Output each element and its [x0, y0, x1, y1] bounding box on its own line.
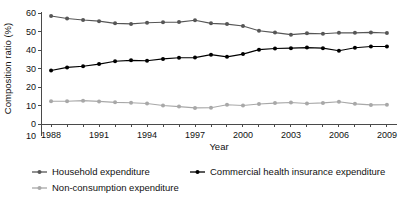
- y-tick-label-50: 50: [26, 27, 36, 37]
- data-point: [161, 57, 165, 61]
- data-point: [193, 18, 197, 22]
- data-point: [353, 31, 357, 35]
- data-point: [337, 49, 341, 53]
- data-point: [65, 65, 69, 69]
- data-point: [273, 31, 277, 35]
- legend-label: Commercial health insurance expenditure: [210, 166, 385, 177]
- data-point: [81, 99, 85, 103]
- legend-marker-dot: [196, 170, 200, 174]
- y-tick-label-60: 60: [26, 8, 36, 18]
- y-tick-label-40: 40: [26, 45, 36, 55]
- data-point: [129, 101, 133, 105]
- data-point: [305, 31, 309, 35]
- data-point: [97, 19, 101, 23]
- data-point: [49, 69, 53, 73]
- data-point: [369, 103, 373, 107]
- series-line-2: [51, 101, 387, 108]
- data-point: [129, 22, 133, 26]
- legend-label: Household expenditure: [52, 166, 150, 177]
- data-point: [273, 47, 277, 51]
- data-point: [113, 59, 117, 63]
- data-point: [225, 103, 229, 107]
- data-point: [369, 30, 373, 34]
- data-point: [49, 99, 53, 103]
- line-chart: 0102030405060101988199119941997200020032…: [0, 0, 403, 205]
- x-tick-label-2009: 2009: [377, 130, 397, 140]
- data-point: [65, 17, 69, 21]
- data-point: [81, 18, 85, 22]
- legend-label: Non-consumption expenditure: [52, 182, 179, 193]
- y-tick-label-0: 0: [31, 119, 36, 129]
- data-point: [337, 31, 341, 35]
- y-tick-label-20: 20: [26, 82, 36, 92]
- data-point: [337, 100, 341, 104]
- data-point: [321, 101, 325, 105]
- x-axis-title: Year: [209, 141, 228, 152]
- y-tick-label-10: 10: [26, 101, 36, 111]
- y-tick-label-extra: 10: [26, 131, 36, 141]
- series-line-0: [51, 16, 387, 35]
- legend-item-2[interactable]: Non-consumption expenditure: [32, 182, 179, 193]
- data-point: [193, 56, 197, 60]
- data-point: [289, 46, 293, 50]
- legend-marker-dot: [38, 186, 42, 190]
- x-tick-label-1997: 1997: [185, 130, 205, 140]
- data-point: [257, 29, 261, 33]
- data-point: [209, 106, 213, 110]
- data-point: [145, 59, 149, 63]
- y-tick-label-30: 30: [26, 64, 36, 74]
- data-point: [321, 46, 325, 50]
- data-point: [353, 102, 357, 106]
- x-tick-label-1991: 1991: [89, 130, 109, 140]
- data-point: [321, 32, 325, 36]
- legend-item-0[interactable]: Household expenditure: [32, 166, 150, 177]
- y-axis-title: Composition ratio (%): [2, 23, 13, 114]
- data-point: [273, 101, 277, 105]
- data-point: [97, 62, 101, 66]
- data-point: [289, 101, 293, 105]
- series-line-1: [51, 46, 387, 70]
- data-point: [113, 21, 117, 25]
- data-point: [353, 46, 357, 50]
- chart-figure: 0102030405060101988199119941997200020032…: [0, 0, 403, 205]
- data-point: [209, 53, 213, 57]
- x-tick-label-2006: 2006: [329, 130, 349, 140]
- x-tick-label-1988: 1988: [41, 130, 61, 140]
- data-point: [385, 44, 389, 48]
- legend-marker-dot: [38, 170, 42, 174]
- data-point: [65, 99, 69, 103]
- x-tick-label-2003: 2003: [281, 130, 301, 140]
- data-point: [97, 99, 101, 103]
- data-point: [177, 105, 181, 109]
- data-point: [257, 102, 261, 106]
- data-point: [289, 33, 293, 37]
- data-point: [385, 103, 389, 107]
- data-point: [305, 101, 309, 105]
- data-point: [305, 46, 309, 50]
- data-point: [161, 20, 165, 24]
- data-point: [129, 58, 133, 62]
- data-point: [193, 106, 197, 110]
- data-point: [161, 104, 165, 108]
- x-tick-label-1994: 1994: [137, 130, 157, 140]
- data-point: [113, 100, 117, 104]
- data-point: [81, 64, 85, 68]
- data-point: [385, 31, 389, 35]
- data-point: [145, 21, 149, 25]
- data-point: [225, 22, 229, 26]
- data-point: [241, 24, 245, 28]
- data-point: [177, 20, 181, 24]
- x-tick-label-2000: 2000: [233, 130, 253, 140]
- data-point: [241, 104, 245, 108]
- data-point: [177, 56, 181, 60]
- data-point: [369, 44, 373, 48]
- data-point: [257, 48, 261, 52]
- legend-item-1[interactable]: Commercial health insurance expenditure: [190, 166, 385, 177]
- data-point: [145, 101, 149, 105]
- data-point: [209, 21, 213, 25]
- data-point: [241, 52, 245, 56]
- data-point: [49, 14, 53, 18]
- data-point: [225, 55, 229, 59]
